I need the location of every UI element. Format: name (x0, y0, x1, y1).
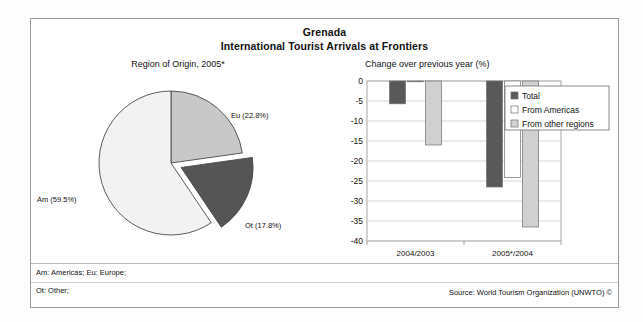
page-subtitle: International Tourist Arrivals at Fronti… (31, 39, 618, 54)
y-tick-label: -15 (351, 136, 364, 146)
x-axis-tick-labels: 2004/20032005*/2004 (367, 241, 561, 258)
y-tick-label: 0 (358, 76, 363, 86)
legend-swatch (511, 120, 518, 127)
bar-total (390, 81, 406, 104)
report-page: Grenada International Tourist Arrivals a… (0, 0, 643, 322)
y-tick-label: -25 (351, 176, 364, 186)
bar-svg: 0-5-10-15-20-25-30-35-40 2004/20032005*/… (341, 73, 613, 273)
footer-top-rule (31, 263, 618, 264)
footer-abbreviations-line2: Ot: Other; (36, 286, 69, 295)
bar-from-americas (408, 81, 424, 82)
bar-total (487, 81, 503, 187)
footer-source: Source: World Tourism Organization (UNWT… (449, 288, 612, 297)
pie-label-ot: Ot (17.8%) (245, 221, 281, 230)
pie-slice-eu (171, 91, 242, 163)
y-tick-label: -20 (351, 156, 364, 166)
legend-swatch (511, 92, 518, 99)
footer-abbreviations-line1: Am: Americas; Eu: Europe; (36, 268, 126, 277)
chart-legend: TotalFrom AmericasFrom other regions (505, 86, 609, 130)
pie-svg (33, 73, 333, 253)
legend-label: Total (522, 91, 540, 101)
footer-divider (31, 282, 618, 283)
x-tick-label: 2005*/2004 (492, 249, 533, 258)
x-tick-label: 2004/2003 (397, 249, 435, 258)
footer: Am: Americas; Eu: Europe; Ot: Other; Sou… (31, 263, 618, 307)
y-tick-label: -10 (351, 116, 364, 126)
report-frame: Grenada International Tourist Arrivals a… (30, 18, 619, 308)
legend-swatch (511, 106, 518, 113)
pie-label-eu: Eu (22.8%) (231, 111, 269, 120)
y-tick-label: -40 (351, 236, 364, 246)
page-title: Grenada (31, 25, 618, 39)
y-axis-tick-labels: 0-5-10-15-20-25-30-35-40 (351, 76, 364, 246)
pie-chart-panel: Region of Origin, 2005* Eu (22.8%) Ot (1… (33, 59, 333, 259)
legend-label: From other regions (522, 119, 594, 129)
y-tick-label: -35 (351, 216, 364, 226)
bar-from-other-regions (426, 81, 442, 145)
y-tick-label: -30 (351, 196, 364, 206)
title-block: Grenada International Tourist Arrivals a… (31, 25, 618, 54)
legend-label: From Americas (522, 105, 579, 115)
bar-chart-graphic: 0-5-10-15-20-25-30-35-40 2004/20032005*/… (341, 73, 613, 273)
pie-chart-caption: Region of Origin, 2005* (33, 59, 323, 69)
pie-label-am: Am (59.5%) (37, 195, 77, 204)
pie-chart-graphic: Eu (22.8%) Ot (17.8%) Am (59.5%) (33, 73, 333, 253)
bar-chart-caption: Change over previous year (%) (365, 59, 490, 69)
y-tick-label: -5 (355, 96, 363, 106)
bar-chart-panel: Change over previous year (%) 0-5-10-15-… (341, 59, 613, 274)
